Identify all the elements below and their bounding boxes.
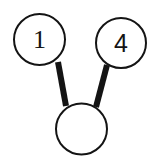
connector-part-2-to-whole-line [96,65,107,107]
part-2-circle[interactable] [96,18,146,68]
connector-part-1-to-whole-line [58,62,66,106]
whole-circle[interactable] [56,104,107,155]
number-bond-figure: 1 4 [0,0,161,161]
number-bond-canvas [0,0,161,161]
part-1-circle[interactable] [14,14,65,65]
